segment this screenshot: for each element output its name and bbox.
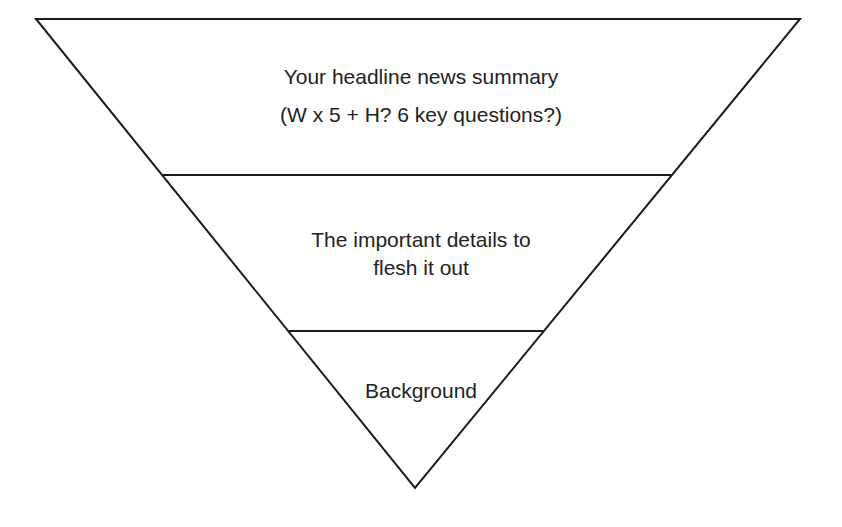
details-layer-line-2: flesh it out	[0, 254, 842, 282]
details-layer-line-1: The important details to	[0, 226, 842, 254]
background-layer-label: Background	[0, 377, 842, 405]
headline-layer-title: Your headline news summary	[0, 63, 842, 91]
headline-layer-subtitle: (W x 5 + H? 6 key questions?)	[0, 101, 842, 129]
